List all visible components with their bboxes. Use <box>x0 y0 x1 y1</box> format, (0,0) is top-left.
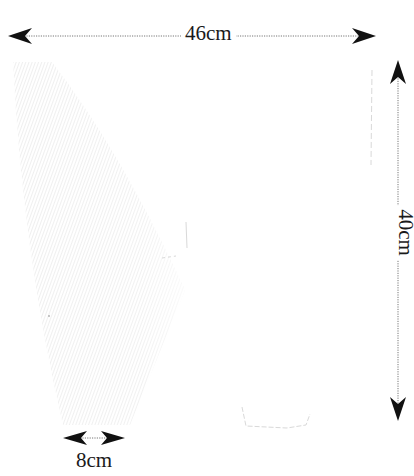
height-dimension-label: 40cm <box>395 205 414 260</box>
width-dimension-label: 46cm <box>181 23 236 44</box>
arrowhead-up-icon <box>390 60 406 84</box>
faint-panel-traces <box>162 70 372 428</box>
bottom-width-dimension-arrow <box>63 431 125 445</box>
diagram-canvas: 46cm 40cm 8cm <box>0 0 414 476</box>
hatched-panel-shape <box>13 62 185 425</box>
bottom-width-dimension-label: 8cm <box>76 450 112 471</box>
diagram-svg <box>0 0 414 476</box>
arrowhead-left-icon <box>8 28 32 44</box>
